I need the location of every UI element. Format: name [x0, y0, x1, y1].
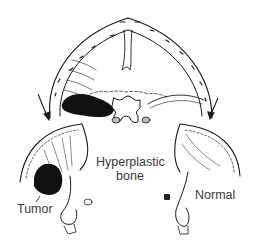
label-tumor: Tumor [17, 202, 53, 216]
arrow-right [211, 98, 218, 114]
tumor-mass-orbit [34, 164, 62, 195]
label-hyperplastic-line1: Hyperplastic [96, 155, 164, 169]
left-optic-nerve [61, 176, 77, 224]
tumor-mass-upper [62, 94, 114, 117]
label-hyperplastic-bone: Hyperplastic bone [96, 155, 164, 183]
label-normal: Normal [195, 188, 235, 202]
arrow-left [38, 94, 47, 116]
falx [122, 30, 132, 70]
label-hyperplastic-line2: bone [96, 169, 164, 183]
right-optic-nerve [176, 172, 189, 226]
